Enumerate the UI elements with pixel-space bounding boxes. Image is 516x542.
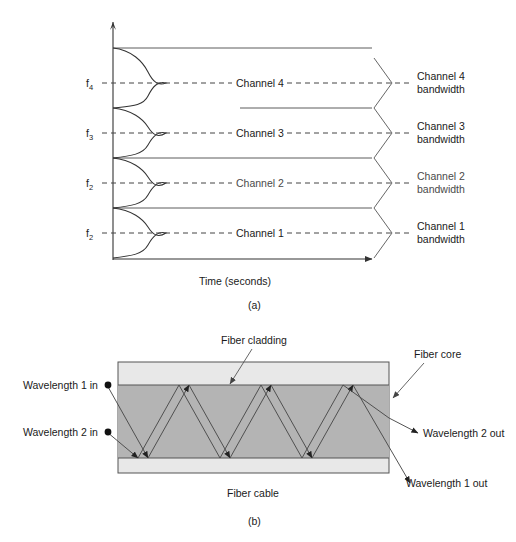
fiber-core-label: Fiber core xyxy=(414,348,461,360)
bandwidth-label-2-line1: Channel 2 xyxy=(417,170,465,183)
wdm-figure: f4 f3 f2 f2 Channel 4 Channel 3 Channel … xyxy=(0,0,516,542)
carrier-peak-curves xyxy=(113,48,166,258)
wavelength-2-input-dot xyxy=(105,429,112,436)
channel-label-1: Channel 1 xyxy=(236,227,284,239)
x-axis-label: Time (seconds) xyxy=(199,275,271,287)
carrier-peak-channel-4 xyxy=(113,48,166,108)
channel-label-4: Channel 4 xyxy=(236,77,284,89)
channel-label-2: Channel 2 xyxy=(236,177,284,189)
wavelength-1-out-label: Wavelength 1 out xyxy=(406,477,487,489)
bandwidth-label-3: Channel 3 bandwidth xyxy=(417,120,465,145)
wavelength-1-in-label: Wavelength 1 in xyxy=(23,379,98,391)
bandwidth-label-1-line2: bandwidth xyxy=(417,233,465,246)
part-a-axes xyxy=(110,22,372,260)
wavelength-1-input-dot xyxy=(105,382,112,389)
fiber-cladding-label: Fiber cladding xyxy=(221,334,287,346)
wavelength-2-out-label: Wavelength 2 out xyxy=(423,427,504,439)
ray2-exit xyxy=(389,418,418,433)
fiber-cable-diagram xyxy=(105,349,424,483)
part-a-caption: (a) xyxy=(248,299,261,311)
bandwidth-label-3-line1: Channel 3 xyxy=(417,120,465,133)
y-tick-label-f1: f2 xyxy=(86,227,93,244)
bandwidth-label-1-line1: Channel 1 xyxy=(417,220,465,233)
bandwidth-label-1: Channel 1 bandwidth xyxy=(417,220,465,245)
bandwidth-label-4-line1: Channel 4 xyxy=(417,70,465,83)
bandwidth-label-2-line2: bandwidth xyxy=(417,183,465,196)
bandwidth-label-2: Channel 2 bandwidth xyxy=(417,170,465,195)
fiber-cable-label: Fiber cable xyxy=(227,487,279,499)
y-tick-label-f2: f2 xyxy=(86,177,93,194)
fiber-core-leader xyxy=(393,363,424,398)
bandwidth-label-4-line2: bandwidth xyxy=(417,83,465,96)
bandwidth-brackets xyxy=(374,58,392,258)
part-b-caption: (b) xyxy=(248,515,261,527)
bandwidth-label-4: Channel 4 bandwidth xyxy=(417,70,465,95)
bandwidth-label-3-line2: bandwidth xyxy=(417,133,465,146)
channel-label-3: Channel 3 xyxy=(236,127,284,139)
y-tick-label-f4: f4 xyxy=(86,77,93,94)
y-tick-label-f3: f3 xyxy=(86,127,93,144)
wavelength-2-in-label: Wavelength 2 in xyxy=(23,426,98,438)
